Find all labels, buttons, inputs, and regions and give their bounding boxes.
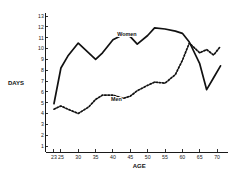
y-tick-label: 10	[38, 45, 44, 51]
line-chart: 12345678910111213 2325303540455055606570…	[0, 0, 234, 178]
x-tick-label: 65	[197, 154, 203, 160]
x-axis-ticks: 2325303540455055606570	[51, 149, 220, 160]
x-tick-label: 70	[214, 154, 220, 160]
y-tick-label: 13	[38, 13, 44, 19]
x-tick-label: 23	[51, 154, 57, 160]
y-tick-label: 6	[41, 89, 44, 95]
y-tick-label: 12	[38, 24, 44, 30]
x-tick-label: 35	[93, 154, 99, 160]
y-tick-label: 2	[41, 132, 44, 138]
y-tick-label: 4	[41, 110, 44, 116]
series-line-women	[54, 28, 221, 104]
y-tick-label: 8	[41, 67, 44, 73]
y-tick-label: 9	[41, 56, 44, 62]
y-tick-label: 11	[39, 35, 44, 41]
y-tick-label: 3	[41, 121, 44, 127]
x-tick-label: 25	[58, 154, 64, 160]
y-axis-title: DAYS	[8, 80, 24, 86]
series-label-men: Men	[111, 96, 122, 102]
x-tick-label: 55	[162, 154, 168, 160]
x-tick-label: 30	[75, 154, 81, 160]
x-axis-title: AGE	[133, 163, 146, 169]
y-tick-label: 5	[41, 100, 44, 106]
y-axis-ticks: 12345678910111213	[38, 13, 48, 149]
series-label-women: Women	[117, 31, 136, 37]
y-tick-label: 7	[41, 78, 44, 84]
x-tick-label: 40	[110, 154, 116, 160]
y-tick-label: 1	[41, 143, 44, 149]
x-tick-label: 60	[179, 154, 185, 160]
x-tick-label: 50	[145, 154, 151, 160]
x-tick-label: 45	[127, 154, 133, 160]
chart-screenshot: 12345678910111213 2325303540455055606570…	[0, 0, 234, 178]
